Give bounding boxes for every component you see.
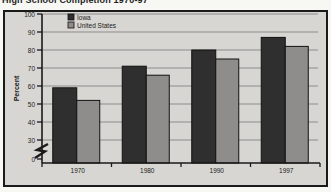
- y-tick-label-30: 30: [28, 137, 36, 144]
- y-tick-label-40: 40: [28, 119, 36, 126]
- legend-label-iowa: Iowa: [77, 14, 91, 21]
- chart-frame: 1970198019901997100908070605040300Percen…: [3, 10, 328, 187]
- legend-swatch-united-states: [68, 22, 74, 28]
- bar-united-states-1970: [77, 100, 100, 163]
- y-tick-label-100: 100: [24, 12, 35, 18]
- bar-iowa-1990: [192, 50, 216, 163]
- bar-united-states-1980: [146, 75, 169, 163]
- chart-canvas: 1970198019901997100908070605040300Percen…: [5, 12, 326, 185]
- x-tick-label-1970: 1970: [71, 167, 86, 174]
- bar-iowa-1970: [53, 88, 77, 163]
- bar-iowa-1980: [122, 66, 146, 163]
- y-tick-label-60: 60: [28, 83, 36, 90]
- y-tick-label-70: 70: [28, 65, 36, 72]
- y-axis-label: Percent: [13, 75, 20, 101]
- legend-swatch-iowa: [68, 14, 74, 20]
- y-tick-label-90: 90: [28, 29, 36, 36]
- chart-title: High School Completion 1970-97: [2, 0, 148, 5]
- legend-label-united-states: United States: [77, 22, 117, 29]
- y-tick-label-80: 80: [28, 47, 36, 54]
- y-tick-label-50: 50: [28, 101, 36, 108]
- x-tick-label-1980: 1980: [140, 167, 155, 174]
- bar-united-states-1997: [285, 46, 308, 163]
- y-tick-label-0: 0: [31, 156, 35, 163]
- bar-iowa-1997: [261, 37, 285, 163]
- chart-title-strip: High School Completion 1970-97: [0, 0, 331, 10]
- bar-united-states-1990: [216, 59, 239, 163]
- x-tick-label-1990: 1990: [210, 167, 225, 174]
- x-tick-label-1997: 1997: [279, 167, 294, 174]
